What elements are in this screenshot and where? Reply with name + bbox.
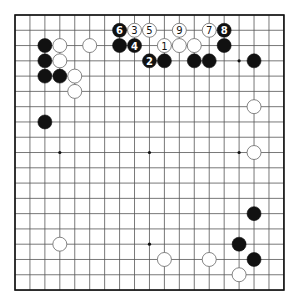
move-number: 5: [146, 25, 152, 36]
white-stone-icon: [232, 268, 246, 282]
black-stone-icon: [202, 54, 216, 68]
black-stone: [38, 54, 52, 68]
white-stone-icon: [202, 252, 216, 266]
white-stone: [187, 39, 201, 53]
white-stone-icon: [68, 84, 82, 98]
white-stone-icon: [157, 252, 171, 266]
move-number: 3: [131, 25, 137, 36]
black-stone: [187, 54, 201, 68]
white-stone-icon: [53, 237, 67, 251]
black-stone-icon: [38, 54, 52, 68]
black-stone-icon: [157, 54, 171, 68]
move-number: 6: [116, 25, 123, 36]
black-stone-icon: [53, 69, 67, 83]
white-stone: [247, 146, 261, 160]
black-stone-2: 2: [142, 54, 156, 68]
white-stone-icon: [53, 54, 67, 68]
white-stone: [247, 100, 261, 114]
black-stone: [38, 69, 52, 83]
white-stone-icon: [83, 39, 97, 53]
black-stone: [202, 54, 216, 68]
star-point: [148, 151, 151, 154]
black-stone-icon: [113, 39, 127, 53]
white-stone-7: 7: [202, 23, 216, 37]
black-stone: [247, 207, 261, 221]
black-stone-icon: [217, 39, 231, 53]
black-stone: [157, 54, 171, 68]
black-stone-icon: [247, 252, 261, 266]
black-stone-icon: [38, 115, 52, 129]
black-stone-6: 6: [113, 23, 127, 37]
go-board: 635978412: [0, 0, 299, 304]
white-stone-icon: [187, 39, 201, 53]
move-number: 2: [146, 56, 153, 67]
black-stone: [247, 252, 261, 266]
star-point: [238, 151, 241, 154]
white-stone: [53, 54, 67, 68]
black-stone: [38, 115, 52, 129]
white-stone-icon: [172, 39, 186, 53]
white-stone: [68, 84, 82, 98]
black-stone: [53, 69, 67, 83]
white-stone: [157, 252, 171, 266]
star-point: [148, 243, 151, 246]
white-stone: [53, 39, 67, 53]
white-stone-icon: [68, 69, 82, 83]
white-stone: [172, 39, 186, 53]
move-number: 1: [161, 41, 167, 52]
white-stone: [83, 39, 97, 53]
black-stone-icon: [38, 39, 52, 53]
star-point: [238, 59, 241, 62]
white-stone-icon: [53, 39, 67, 53]
white-stone: [68, 69, 82, 83]
move-number: 7: [206, 25, 212, 36]
black-stone-icon: [187, 54, 201, 68]
black-stone: [232, 237, 246, 251]
white-stone-icon: [247, 146, 261, 160]
black-stone-icon: [232, 237, 246, 251]
black-stone: [113, 39, 127, 53]
move-number: 4: [131, 41, 138, 52]
black-stone-icon: [38, 69, 52, 83]
white-stone: [202, 252, 216, 266]
white-stone: [53, 237, 67, 251]
black-stone-icon: [247, 207, 261, 221]
black-stone: [38, 39, 52, 53]
white-stone-9: 9: [172, 23, 186, 37]
move-number: 9: [176, 25, 182, 36]
black-stone-8: 8: [217, 23, 231, 37]
black-stone: [217, 39, 231, 53]
white-stone-5: 5: [142, 23, 156, 37]
black-stone: [247, 54, 261, 68]
white-stone-1: 1: [157, 39, 171, 53]
white-stone-3: 3: [128, 23, 142, 37]
white-stone: [232, 268, 246, 282]
black-stone-4: 4: [128, 39, 142, 53]
star-point: [58, 151, 61, 154]
move-number: 8: [221, 25, 228, 36]
black-stone-icon: [247, 54, 261, 68]
white-stone-icon: [247, 100, 261, 114]
